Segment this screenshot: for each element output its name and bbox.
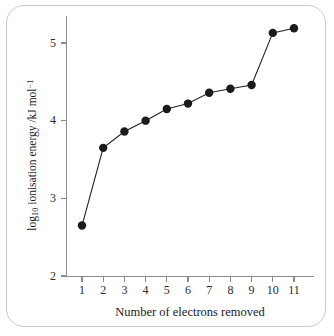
data-series-svg — [0, 0, 334, 336]
data-point-10 — [269, 29, 277, 37]
data-point-3 — [120, 127, 128, 135]
data-point-5 — [163, 105, 171, 113]
y-axis-title-middle: ionisation energy /kJ mol — [26, 88, 38, 207]
y-axis-title-superscript: −1 — [26, 80, 35, 89]
data-point-7 — [205, 89, 213, 97]
data-point-1 — [78, 221, 86, 229]
x-axis-title: Number of electrons removed — [66, 305, 314, 319]
data-point-2 — [99, 144, 107, 152]
y-axis-title-prefix: log — [26, 216, 38, 231]
data-point-4 — [141, 116, 149, 124]
chart-plot-area: 2345 1234567891011 log10 ionisation ener… — [0, 0, 334, 336]
y-axis-title: log10 ionisation energy /kJ mol−1 — [24, 50, 42, 260]
data-markers — [78, 24, 298, 230]
y-axis-title-subscript: 10 — [31, 208, 40, 216]
data-point-8 — [226, 85, 234, 93]
data-point-6 — [184, 99, 192, 107]
data-line — [82, 28, 294, 225]
data-point-9 — [247, 81, 255, 89]
data-point-11 — [290, 24, 298, 32]
